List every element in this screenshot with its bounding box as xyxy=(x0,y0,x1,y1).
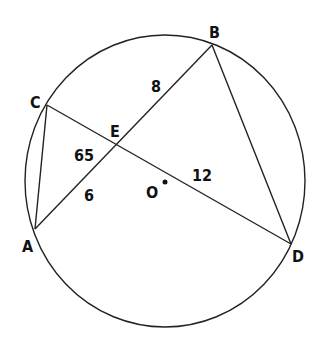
label-e: E xyxy=(110,122,120,141)
circle-diagram: B C E A D O 65 6 8 12 xyxy=(0,0,323,345)
chord-ab xyxy=(35,45,212,229)
label-eb-8: 8 xyxy=(151,77,161,96)
label-b: B xyxy=(209,23,220,42)
center-dot xyxy=(163,180,168,185)
label-ea-6: 6 xyxy=(84,186,94,205)
chord-cd xyxy=(47,105,291,244)
label-d: D xyxy=(292,247,304,266)
label-ed-12: 12 xyxy=(192,166,212,185)
label-o: O xyxy=(146,183,158,202)
label-c: C xyxy=(30,93,41,112)
label-a: A xyxy=(22,237,34,256)
segment-bd xyxy=(212,45,291,244)
label-angle-65: 65 xyxy=(74,146,94,165)
